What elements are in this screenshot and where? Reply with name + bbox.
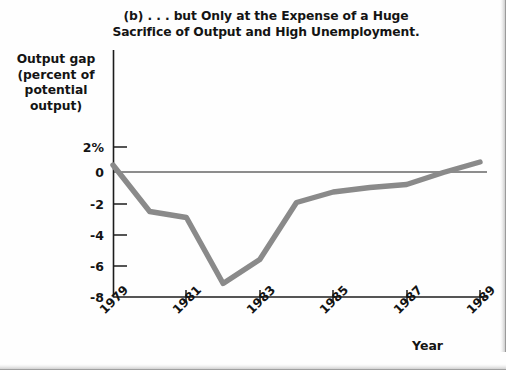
page-edge-bottom <box>0 364 506 370</box>
y-tick-label-minus2: -2 <box>60 197 104 212</box>
x-axis-title: Year <box>412 338 443 353</box>
output-gap-line <box>113 162 480 284</box>
y-tick-label-2: 2% <box>60 140 104 155</box>
y-tick-label-minus6: -6 <box>60 259 104 274</box>
figure-panel: (b) . . . but Only at the Expense of a H… <box>0 0 506 370</box>
y-tick-label-minus8: -8 <box>60 290 104 305</box>
page-edge-right <box>500 0 506 352</box>
y-tick-label-0: 0 <box>60 165 104 180</box>
y-tick-label-minus4: -4 <box>60 228 104 243</box>
